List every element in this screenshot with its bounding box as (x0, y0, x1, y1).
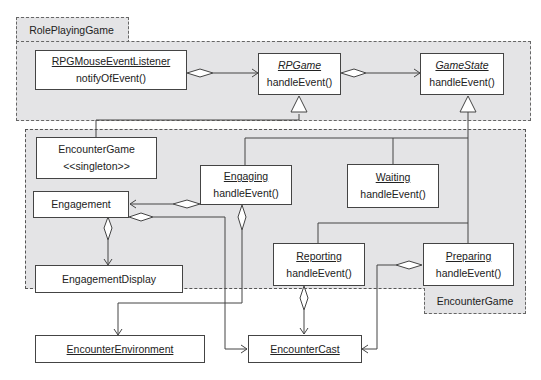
class-name: Reporting (296, 248, 342, 265)
class-name: GameState (435, 57, 488, 74)
class-name: RPGMouseEventListener (52, 53, 170, 70)
class-engagement[interactable]: Engagement (33, 191, 129, 218)
class-name: EngagementDisplay (62, 271, 156, 288)
class-operation: handleEvent() (429, 74, 494, 91)
class-name: EncounterCast (270, 341, 339, 358)
class-engagementdisplay[interactable]: EngagementDisplay (35, 265, 183, 293)
class-gamestate[interactable]: GameState handleEvent() (420, 53, 504, 95)
class-encountercast[interactable]: EncounterCast (248, 335, 362, 363)
class-rpgame[interactable]: RPGame handleEvent() (258, 53, 341, 95)
class-operation: handleEvent() (213, 185, 278, 202)
class-operation: handleEvent() (267, 74, 332, 91)
class-name: Engaging (224, 168, 268, 185)
class-waiting[interactable]: Waiting handleEvent() (347, 164, 439, 208)
class-operation: handleEvent() (436, 265, 501, 282)
class-name: Waiting (376, 169, 411, 186)
class-name: Engagement (51, 196, 111, 213)
class-reporting[interactable]: Reporting handleEvent() (273, 243, 365, 286)
class-name: EncounterEnvironment (67, 341, 174, 358)
class-rpgmouseeventlistener[interactable]: RPGMouseEventListener notifyOfEvent() (35, 50, 187, 90)
class-name: Preparing (446, 248, 492, 265)
class-operation: notifyOfEvent() (76, 70, 146, 87)
class-engaging[interactable]: Engaging handleEvent() (200, 165, 292, 205)
class-encounterenvironment[interactable]: EncounterEnvironment (35, 335, 205, 363)
class-encountergame[interactable]: EncounterGame <<singleton>> (36, 137, 157, 179)
class-stereotype: <<singleton>> (63, 158, 130, 175)
class-name: RPGame (278, 57, 321, 74)
class-name: EncounterGame (58, 141, 134, 158)
class-preparing[interactable]: Preparing handleEvent() (423, 243, 514, 286)
class-operation: handleEvent() (360, 186, 425, 203)
class-operation: handleEvent() (286, 265, 351, 282)
